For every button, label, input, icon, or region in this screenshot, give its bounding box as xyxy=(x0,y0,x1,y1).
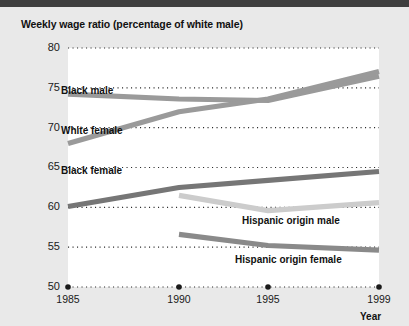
series-label-white-female: White female xyxy=(61,125,123,136)
x-marker-1985 xyxy=(65,284,71,290)
series-label-black-female: Black female xyxy=(61,165,122,176)
x-tick-1999: 1999 xyxy=(359,293,399,305)
series-label-hispanic-female: Hispanic origin female xyxy=(235,254,342,265)
x-axis-title: Year xyxy=(360,311,381,322)
x-marker-1999 xyxy=(376,284,382,290)
series-line-hispanic-male xyxy=(179,195,379,210)
plot-wrapper: 80 75 70 65 60 55 50 xyxy=(0,0,409,326)
series-label-hispanic-male: Hispanic origin male xyxy=(242,215,340,226)
x-tick-1985: 1985 xyxy=(48,293,88,305)
x-marker-1995 xyxy=(265,284,271,290)
series-line-black-male xyxy=(68,76,379,100)
x-tick-1995: 1995 xyxy=(248,293,288,305)
x-tick-1990: 1990 xyxy=(159,293,199,305)
series-label-black-male: Black male xyxy=(61,85,113,96)
series-line-hispanic-female xyxy=(179,234,379,250)
x-marker-1990 xyxy=(176,284,182,290)
chart-canvas xyxy=(0,0,409,326)
chart-page: Weekly wage ratio (percentage of white m… xyxy=(0,0,409,326)
